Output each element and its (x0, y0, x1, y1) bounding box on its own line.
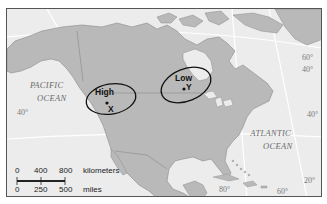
map-frame: PACIFIC OCEAN ATLANTIC OCEAN 60° 40° 40°… (6, 8, 322, 197)
lat-40-east-label: 40° (302, 65, 313, 74)
scale-mi-unit: miles (83, 185, 102, 194)
scale-mi-250: 250 (34, 185, 47, 194)
central-america (183, 181, 207, 197)
scale-km-0: 0 (15, 166, 19, 175)
lat-60-label: 60° (302, 53, 313, 62)
lon-80-label: 80° (219, 185, 230, 194)
scale-km-400: 400 (34, 166, 47, 175)
lat-40-atlantic-label: 40° (307, 110, 318, 119)
high-label: High (95, 87, 114, 97)
atlantic-ocean-label: ATLANTIC OCEAN (249, 127, 292, 153)
point-y-label: Y (186, 82, 192, 92)
lat-40-west-label: 40° (17, 108, 28, 117)
atlantic-ocean-line1: ATLANTIC (249, 127, 292, 140)
pacific-ocean-line2: OCEAN (27, 92, 66, 105)
scale-km-800: 800 (59, 166, 72, 175)
atlantic-ocean-line2: OCEAN (249, 140, 292, 153)
point-x-label: X (108, 104, 114, 114)
lat-20-label: 20° (304, 176, 315, 185)
scale-mi-500: 500 (59, 185, 72, 194)
scale-bar (17, 177, 65, 185)
pacific-ocean-line1: PACIFIC (27, 79, 66, 92)
scale-km-unit: kilometers (83, 166, 119, 175)
pacific-ocean-label: PACIFIC OCEAN (27, 79, 66, 105)
greenland (275, 9, 322, 45)
scale-mi-0: 0 (15, 185, 19, 194)
lon-60-label: 60° (277, 187, 288, 196)
